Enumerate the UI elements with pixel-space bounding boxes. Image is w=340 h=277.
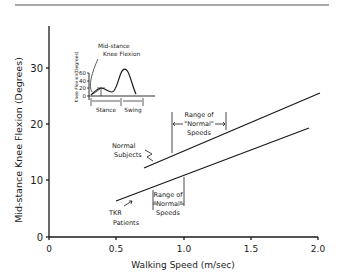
inset-y-tick: 20 xyxy=(79,85,86,91)
inset-swing-label: Swing xyxy=(124,107,142,114)
normal-range-label-2: "Normal" xyxy=(184,120,214,128)
tkr-patients-label-1: TKR xyxy=(108,209,122,217)
x-axis-title: Walking Speed (m/sec) xyxy=(131,260,234,270)
y-tick-label: 10 xyxy=(30,175,43,186)
inset-annotation-2: Knee Flexion xyxy=(103,51,140,57)
inset-y-axis-title: Knee Flexion(Degrees) xyxy=(74,51,79,102)
tkr-range-label-1: Range of xyxy=(154,191,184,199)
inset-y-tick: 60 xyxy=(79,70,86,76)
inset-gait-curve xyxy=(91,69,136,95)
tkr-pointer-arrow xyxy=(124,201,132,206)
y-axis-title: Mid-stance Knee Flexion (Degrees) xyxy=(13,57,24,223)
x-tick-label: 0.5 xyxy=(109,244,123,254)
inset-pointer-line xyxy=(90,59,98,92)
x-tick-label: 0 xyxy=(46,244,52,254)
inset-stance-label: Stance xyxy=(96,107,116,113)
x-tick-label: 1.5 xyxy=(244,244,258,254)
normal-subjects-label-1: Normal xyxy=(112,142,136,150)
tkr-patients-label-2: Patients xyxy=(113,219,140,227)
normal-subjects-label-2: Subjects xyxy=(114,151,142,159)
inset-y-tick: 0 xyxy=(83,93,87,99)
normal-pointer-arrow xyxy=(145,150,153,161)
y-tick-label: 20 xyxy=(30,119,43,130)
y-tick-label: 0 xyxy=(37,232,43,243)
tkr-range-label-2: "Normal" xyxy=(153,200,183,208)
inset-y-tick: 40 xyxy=(79,78,86,84)
x-tick-label: 1.0 xyxy=(177,244,192,254)
tkr-range-label-3: Speeds xyxy=(156,209,180,217)
normal-range-label-1: Range of xyxy=(185,111,215,119)
chart-figure: 0 10 20 30 0 0.5 1.0 1.5 2.0 Walking Spe… xyxy=(0,0,340,277)
normal-range-label-3: Speeds xyxy=(187,129,211,137)
x-tick-label: 2.0 xyxy=(311,244,326,254)
y-tick-label: 30 xyxy=(30,63,43,74)
inset-annotation-1: Mid-stance xyxy=(98,43,130,49)
inset-chart: 0 20 40 60 Knee Flexion(Degrees) Mid-sta… xyxy=(74,43,155,114)
